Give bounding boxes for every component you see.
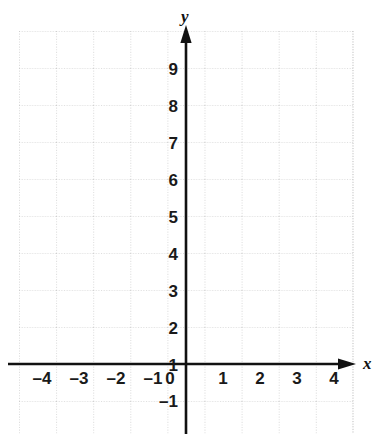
y-tick-label-6: 6 xyxy=(152,172,178,189)
x-tick-label--4: –4 xyxy=(27,370,57,387)
y-tick-label-2: 2 xyxy=(152,320,178,337)
x-tick-label-3: 3 xyxy=(282,370,312,387)
y-tick-label-8: 8 xyxy=(152,98,178,115)
x-tick-label-4: 4 xyxy=(319,370,349,387)
x-tick-label--3: –3 xyxy=(64,370,94,387)
y-tick-label-9: 9 xyxy=(152,61,178,78)
y-tick-label-4: 4 xyxy=(152,246,178,263)
y-tick-label-1: 1 xyxy=(152,357,178,374)
x-tick-label--2: –2 xyxy=(101,370,131,387)
y-tick-label--1: –1 xyxy=(148,393,178,410)
y-tick-label-5: 5 xyxy=(152,209,178,226)
coordinate-plane-graph: y x 0 –4 –3 –2 –1 1 2 3 4 9 8 7 6 5 4 3 … xyxy=(0,0,380,434)
x-tick-label-1: 1 xyxy=(208,370,238,387)
graph-canvas xyxy=(0,0,380,434)
y-tick-label-3: 3 xyxy=(152,283,178,300)
x-axis-label: x xyxy=(363,355,372,372)
x-tick-label-2: 2 xyxy=(245,370,275,387)
y-axis-label: y xyxy=(181,8,189,25)
y-tick-label-7: 7 xyxy=(152,135,178,152)
